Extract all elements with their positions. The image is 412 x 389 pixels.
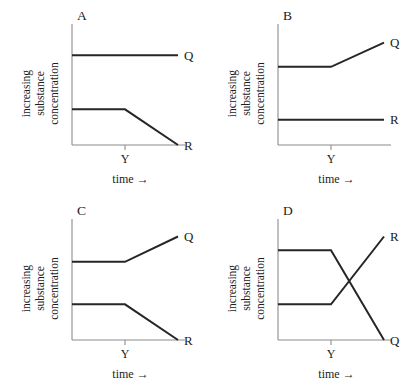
y-axis-title-line-1: increasing xyxy=(226,265,239,313)
panel-letter-d: D xyxy=(283,203,293,218)
series-line-q xyxy=(278,250,384,340)
x-tick-label: Y xyxy=(327,152,336,166)
x-tick-label: Y xyxy=(121,347,130,361)
x-axis-title: time → xyxy=(112,172,148,186)
series-label-r: R xyxy=(184,333,193,348)
series-line-r xyxy=(72,109,178,145)
chart-panel-a: AYQRtime →increasingsubstanceconcentrati… xyxy=(0,0,206,194)
series-label-q: Q xyxy=(184,229,194,244)
y-axis-title-line-3: concentration xyxy=(254,62,266,125)
series-label-r: R xyxy=(390,112,399,127)
x-tick-label: Y xyxy=(327,347,336,361)
y-axis-title-line-2: substance xyxy=(240,71,252,116)
chart-d: DYQRtime →increasingsubstanceconcentrati… xyxy=(206,195,412,389)
chart-panel-b: BYQRtime →increasingsubstanceconcentrati… xyxy=(206,0,412,194)
y-axis-title-line-1: increasing xyxy=(226,70,239,118)
chart-panel-d: DYQRtime →increasingsubstanceconcentrati… xyxy=(206,195,412,389)
series-label-q: Q xyxy=(390,333,400,348)
panel-letter-c: C xyxy=(77,203,86,218)
chart-a: AYQRtime →increasingsubstanceconcentrati… xyxy=(0,0,206,194)
chart-panel-c: CYQRtime →increasingsubstanceconcentrati… xyxy=(0,195,206,389)
x-axis-title: time → xyxy=(318,172,354,186)
series-line-q xyxy=(72,237,178,262)
y-axis-title-line-3: concentration xyxy=(48,62,60,125)
y-axis-title-line-2: substance xyxy=(240,266,252,311)
x-axis-title: time → xyxy=(112,367,148,381)
y-axis-title-line-1: increasing xyxy=(20,70,33,118)
chart-b: BYQRtime →increasingsubstanceconcentrati… xyxy=(206,0,412,194)
series-line-r xyxy=(278,237,384,305)
y-axis-title-line-1: increasing xyxy=(20,265,33,313)
y-axis-title-line-3: concentration xyxy=(48,257,60,320)
x-tick-label: Y xyxy=(121,152,130,166)
four-panel-concentration-figure: AYQRtime →increasingsubstanceconcentrati… xyxy=(0,0,412,389)
panel-letter-a: A xyxy=(77,8,87,23)
series-label-r: R xyxy=(390,229,399,244)
y-axis-title-line-2: substance xyxy=(34,71,46,116)
series-line-q xyxy=(278,43,384,67)
x-axis-title: time → xyxy=(318,367,354,381)
series-label-q: Q xyxy=(184,48,194,63)
series-label-r: R xyxy=(184,138,193,153)
y-axis-title-line-2: substance xyxy=(34,266,46,311)
series-line-r xyxy=(72,304,178,340)
panel-letter-b: B xyxy=(283,8,292,23)
series-label-q: Q xyxy=(390,35,400,50)
y-axis-title-line-3: concentration xyxy=(254,257,266,320)
chart-c: CYQRtime →increasingsubstanceconcentrati… xyxy=(0,195,206,389)
